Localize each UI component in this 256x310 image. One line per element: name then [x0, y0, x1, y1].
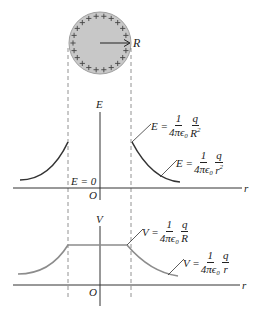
eq-den: 4πϵ₀: [201, 263, 220, 275]
eq-lhs: E =: [176, 157, 193, 169]
eq-num: 1: [207, 250, 215, 263]
eq-qden: r: [224, 263, 228, 275]
v-r-axis-label: r: [242, 279, 246, 291]
eq-qnum: q: [215, 150, 223, 163]
v-surface-leader: [127, 229, 143, 245]
eq-power: 2: [219, 163, 223, 171]
e-axis-label: E: [96, 98, 103, 110]
e-outside-equation: E = 14πϵ₀ qr2: [176, 150, 224, 176]
eq-den: 4πϵ₀: [194, 163, 213, 175]
eq-qnum: q: [181, 219, 189, 232]
v-surface-equation: V = 14πϵ₀ qR: [142, 219, 189, 244]
eq-num: 1: [175, 113, 183, 126]
e-surface-leader: [132, 124, 151, 142]
v-axis-label: V: [96, 213, 103, 225]
eq-num: 1: [200, 150, 208, 163]
e-surface-equation: E = 14πϵ₀ qR2: [151, 113, 201, 139]
e-origin-label: O: [89, 189, 97, 201]
e-curve-left: [20, 142, 68, 180]
eq-den: 4πϵ₀: [169, 126, 188, 138]
v-outside-equation: V = 14πϵ₀ qr: [183, 250, 230, 275]
eq-qnum: q: [222, 250, 230, 263]
eq-qnum: q: [192, 113, 200, 126]
eq-lhs: E =: [151, 120, 168, 132]
eq-den: 4πϵ₀: [160, 232, 179, 244]
eq-lhs: V =: [183, 257, 200, 269]
eq-power: 2: [197, 126, 201, 134]
eq-lhs: V =: [142, 226, 159, 238]
e-outside-leader: [160, 160, 177, 177]
v-curve: [18, 245, 178, 276]
eq-qden: R: [181, 232, 188, 244]
eq-num: 1: [166, 219, 174, 232]
v-outside-leader: [168, 259, 184, 275]
e-r-axis-label: r: [244, 182, 248, 194]
eq-qden: R: [190, 127, 197, 139]
e-curve-right: [132, 142, 180, 182]
v-origin-label: O: [89, 286, 97, 298]
e-inside-label: E = 0: [71, 175, 96, 187]
radius-label: R: [133, 36, 140, 51]
